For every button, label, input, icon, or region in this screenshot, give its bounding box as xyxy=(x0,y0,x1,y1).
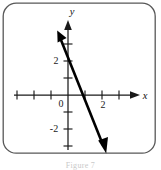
figure-frame xyxy=(3,3,155,153)
figure-container: x y 0 2 2 -2 Figure 7 xyxy=(0,0,161,170)
figure-caption: Figure 7 xyxy=(0,161,161,170)
y-axis-label: y xyxy=(69,6,75,17)
coordinate-plane-graph: x y 0 2 2 -2 xyxy=(0,0,161,170)
y-tick-label--2: -2 xyxy=(50,123,58,134)
x-tick-label-2: 2 xyxy=(101,99,106,110)
origin-label: 0 xyxy=(59,98,64,109)
x-axis-label: x xyxy=(142,90,148,101)
y-tick-label-2: 2 xyxy=(54,55,59,66)
